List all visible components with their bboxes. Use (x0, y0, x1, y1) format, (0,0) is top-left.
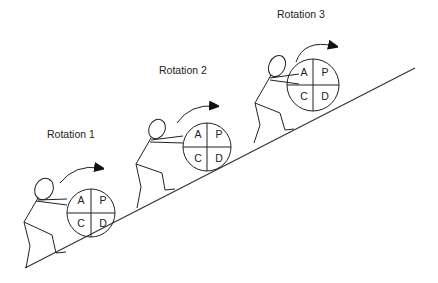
wheel-2-quadrant-c: C (191, 152, 205, 164)
wheel-3-quadrant-d: D (318, 90, 332, 102)
wheel-1-quadrant-c: C (74, 217, 88, 229)
rotation-arrow-2-icon (177, 106, 215, 123)
wheel-3-quadrant-c: C (297, 90, 311, 102)
rotation-1-label: Rotation 1 (47, 128, 95, 140)
rotation-arrow-1-icon (60, 167, 100, 183)
wheel-3-quadrant-a: A (297, 66, 311, 78)
wheel-3-quadrant-p: P (318, 66, 332, 78)
figure-3-head (265, 53, 289, 80)
figure-2-body (136, 136, 183, 208)
pdca-hill-diagram (0, 0, 438, 283)
figure-1-head (31, 175, 57, 203)
rotation-2-label: Rotation 2 (159, 64, 207, 76)
wheel-2-quadrant-d: D (212, 152, 226, 164)
rotation-3-label: Rotation 3 (277, 8, 325, 20)
wheel-1-quadrant-a: A (74, 194, 88, 206)
wheel-1-quadrant-d: D (96, 217, 110, 229)
wheel-2-quadrant-p: P (212, 128, 226, 140)
figure-2-head (146, 117, 169, 142)
figure-3-body (254, 74, 299, 143)
wheel-1-quadrant-p: P (96, 194, 110, 206)
wheel-2-quadrant-a: A (191, 128, 205, 140)
